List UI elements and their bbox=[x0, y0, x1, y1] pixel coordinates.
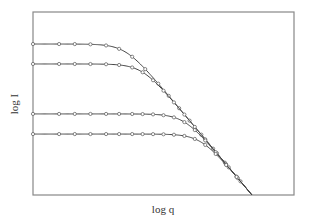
series-group bbox=[31, 42, 252, 195]
data-point bbox=[31, 112, 34, 115]
series-1 bbox=[31, 42, 252, 195]
data-point bbox=[104, 44, 107, 47]
data-point bbox=[172, 116, 175, 119]
data-point bbox=[141, 71, 144, 74]
data-point bbox=[183, 121, 186, 124]
data-point bbox=[89, 132, 92, 135]
data-point bbox=[235, 175, 238, 178]
data-point bbox=[58, 132, 61, 135]
data-point bbox=[225, 163, 228, 166]
data-point bbox=[89, 112, 92, 115]
data-point bbox=[151, 79, 154, 82]
data-point bbox=[172, 133, 175, 136]
data-point bbox=[58, 62, 61, 65]
series-line bbox=[33, 114, 252, 195]
data-point bbox=[104, 132, 107, 135]
data-point bbox=[73, 132, 76, 135]
plot-frame bbox=[33, 12, 294, 195]
series-line bbox=[33, 134, 252, 195]
series-line bbox=[33, 44, 252, 195]
data-point bbox=[193, 137, 196, 140]
data-point bbox=[193, 125, 196, 128]
data-point bbox=[162, 89, 165, 92]
data-point bbox=[144, 68, 147, 71]
x-axis-label: log q bbox=[152, 203, 175, 215]
data-point bbox=[118, 112, 121, 115]
data-point bbox=[104, 63, 107, 66]
data-point bbox=[193, 128, 196, 131]
data-point bbox=[73, 112, 76, 115]
data-point bbox=[73, 42, 76, 45]
data-point bbox=[73, 62, 76, 65]
data-point bbox=[31, 132, 34, 135]
data-point bbox=[58, 42, 61, 45]
data-point bbox=[141, 112, 144, 115]
data-point bbox=[141, 132, 144, 135]
data-point bbox=[118, 132, 121, 135]
series-line bbox=[33, 64, 252, 195]
data-point bbox=[118, 47, 121, 50]
data-point bbox=[131, 112, 134, 115]
data-point bbox=[162, 133, 165, 136]
data-point bbox=[118, 63, 121, 66]
data-point bbox=[58, 112, 61, 115]
data-point bbox=[183, 134, 186, 137]
chart: log q log I bbox=[0, 0, 309, 220]
data-point bbox=[172, 101, 175, 104]
data-point bbox=[162, 114, 165, 117]
y-axis-label: log I bbox=[8, 93, 20, 114]
data-point bbox=[104, 112, 107, 115]
series-4 bbox=[31, 132, 252, 195]
series-2 bbox=[31, 62, 252, 195]
data-point bbox=[89, 43, 92, 46]
data-point bbox=[131, 132, 134, 135]
data-point bbox=[31, 62, 34, 65]
data-point bbox=[89, 62, 92, 65]
data-point bbox=[183, 113, 186, 116]
data-point bbox=[204, 139, 207, 142]
data-point bbox=[151, 113, 154, 116]
data-point bbox=[131, 66, 134, 69]
data-point bbox=[151, 133, 154, 136]
data-point bbox=[131, 55, 134, 58]
data-point bbox=[214, 152, 217, 155]
data-point bbox=[204, 143, 207, 146]
data-point bbox=[31, 42, 34, 45]
